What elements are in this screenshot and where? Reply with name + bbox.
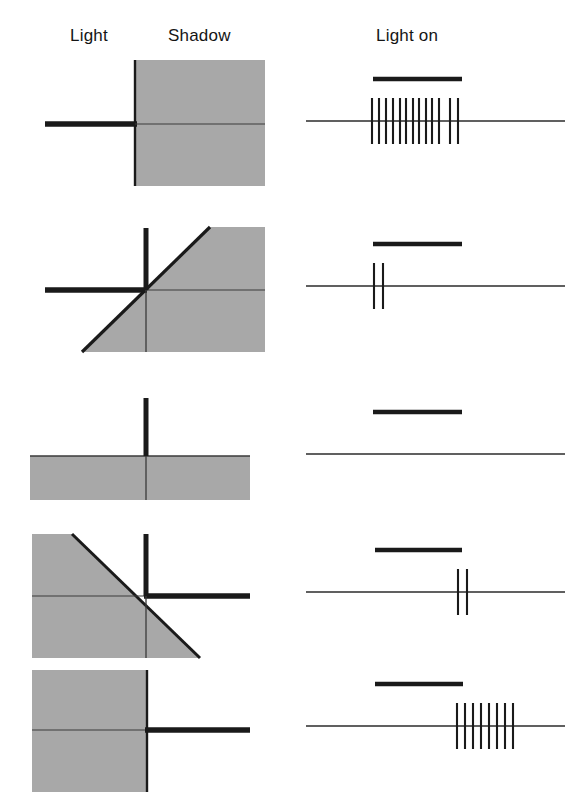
response-trace-row-2 [290,224,577,356]
column-header-shadow: Shadow [168,26,231,46]
response-trace-row-4 [290,530,577,662]
shadow-region-right-half [135,60,265,186]
stimulus-diagram-row-4 [0,530,290,662]
response-trace-row-5 [290,664,577,796]
figure-row-1 [0,58,577,188]
response-trace-row-1 [290,58,577,188]
stimulus-diagram-row-2 [0,224,290,356]
figure-row-2 [0,224,577,356]
figure-row-4 [0,530,577,662]
column-header-light-on: Light on [376,26,438,46]
receptive-field-response-figure: Light Shadow Light on [0,0,577,802]
response-trace-row-3 [290,392,577,512]
shadow-region-lower-half [30,456,250,500]
shadow-region-left-half [32,670,148,792]
stimulus-diagram-row-5 [0,664,290,796]
figure-row-3 [0,392,577,512]
stimulus-diagram-row-3 [0,392,290,512]
figure-row-5 [0,664,577,796]
column-header-light: Light [70,26,108,46]
stimulus-diagram-row-1 [0,58,290,188]
